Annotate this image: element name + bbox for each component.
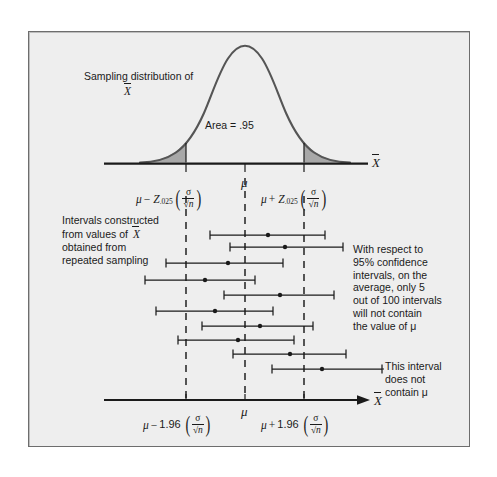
confidence-interval-row — [145, 275, 255, 284]
sqrt-n-symbol: √n — [182, 198, 194, 209]
confidence-interval-row — [230, 242, 343, 251]
sqrt-n-symbol: √n — [307, 198, 319, 209]
right-paren: ) — [321, 190, 326, 208]
confidence-interval-row — [210, 230, 325, 239]
sigma-symbol: σ — [194, 414, 201, 424]
intervals-caption-line3: obtained from — [62, 241, 159, 254]
respect-note-line: out of 100 intervals — [353, 294, 442, 307]
interval-sample-mean-point — [288, 352, 292, 356]
interval-sample-mean-point — [283, 245, 287, 249]
sigma-symbol: σ — [312, 414, 319, 424]
z-subscript: .025 — [285, 197, 298, 206]
respect-note-line: intervals, on the — [353, 269, 442, 282]
intervals-caption-line1: Intervals constructed — [62, 214, 159, 227]
interval-sample-mean-point — [258, 324, 262, 328]
not-contain-note-line: This interval — [385, 360, 442, 373]
minus-operator: − — [144, 192, 151, 206]
mu-symbol: μ — [143, 418, 149, 432]
figure-root: Sampling distribution of X Area = .95 X … — [0, 0, 497, 477]
mu-symbol: μ — [261, 418, 267, 432]
sampling-distribution-caption: Sampling distribution of X — [84, 70, 193, 98]
lower-bound-formula-top: μ − Z .025 ( σ √n ) — [136, 188, 203, 210]
x-bar-symbol: X — [133, 227, 140, 241]
confidence-interval-row — [224, 290, 334, 299]
interval-sample-mean-point — [213, 309, 217, 313]
mu-symbol: μ — [136, 192, 142, 206]
coefficient-value: 1.96 — [277, 418, 298, 431]
sigma-symbol: σ — [185, 188, 192, 198]
confidence-interval-layer — [145, 230, 382, 373]
right-paren: ) — [206, 416, 211, 434]
x-bar-symbol: X — [372, 155, 380, 171]
interval-sample-mean-point — [278, 293, 282, 297]
interval-sample-mean-point — [320, 367, 324, 371]
confidence-interval-row — [156, 306, 273, 315]
respect-note-line: average, only 5 — [353, 281, 442, 294]
coefficient-value: 1.96 — [159, 418, 180, 431]
sqrt-n-symbol: √n — [310, 424, 322, 435]
plus-operator: + — [269, 192, 276, 206]
intervals-caption-line2-text: from values of — [62, 228, 128, 240]
respect-note-line: 95% confidence — [353, 256, 442, 269]
not-contain-note: This intervaldoes notcontain μ — [385, 360, 442, 398]
confidence-interval-row — [178, 335, 294, 344]
lower-bound-formula-bottom: μ − 1.96 ( σ √n ) — [143, 414, 212, 436]
z-subscript: .025 — [160, 197, 173, 206]
mu-label-bottom: μ — [241, 404, 248, 420]
intervals-caption: Intervals constructed from values of X o… — [62, 214, 159, 266]
normal-curve-group — [140, 46, 350, 163]
respect-note: With respect to95% confidenceintervals, … — [353, 243, 442, 333]
upper-bound-formula-top: μ + Z .025 ( σ √n ) — [261, 188, 328, 210]
not-contain-note-line: does not — [385, 373, 442, 386]
sampling-distribution-caption-line2: X — [84, 84, 193, 98]
sampling-distribution-caption-line1: Sampling distribution of — [84, 70, 193, 83]
x-bar-symbol: X — [124, 84, 131, 98]
right-paren: ) — [324, 416, 329, 434]
area-label: Area = .95 — [205, 119, 254, 132]
left-paren: ( — [185, 416, 190, 434]
left-paren: ( — [176, 190, 181, 208]
confidence-interval-row — [233, 349, 346, 358]
interval-sample-mean-point — [226, 261, 230, 265]
upper-bound-formula-bottom: μ + 1.96 ( σ √n ) — [261, 414, 330, 436]
sqrt-n-symbol: √n — [192, 424, 204, 435]
sigma-symbol: σ — [310, 188, 317, 198]
interval-sample-mean-point — [236, 338, 240, 342]
normal-density-curve — [140, 46, 350, 163]
reference-dashed-lines — [186, 178, 304, 398]
left-paren: ( — [303, 416, 308, 434]
respect-note-line: will not contain — [353, 307, 442, 320]
confidence-interval-row — [272, 364, 382, 373]
minus-operator: − — [151, 418, 158, 432]
respect-note-line: the value of μ — [353, 320, 442, 333]
interval-sample-mean-point — [203, 278, 207, 282]
confidence-interval-row — [202, 321, 313, 330]
bottom-axis-arrowhead — [357, 395, 370, 405]
left-paren: ( — [301, 190, 306, 208]
intervals-caption-line4: repeated sampling — [62, 254, 159, 267]
not-contain-note-line: contain μ — [385, 386, 442, 399]
x-bar-symbol: X — [374, 393, 382, 409]
right-paren: ) — [196, 190, 201, 208]
intervals-caption-line2: from values of X — [62, 227, 159, 241]
bottom-axis-variable-label: X — [374, 390, 382, 410]
interval-sample-mean-point — [266, 233, 270, 237]
mu-symbol: μ — [261, 192, 267, 206]
mu-label-top: μ — [241, 175, 248, 191]
plus-operator: + — [269, 418, 276, 432]
top-axis-variable-label: X — [372, 152, 380, 172]
confidence-interval-row — [166, 258, 283, 267]
respect-note-line: With respect to — [353, 243, 442, 256]
